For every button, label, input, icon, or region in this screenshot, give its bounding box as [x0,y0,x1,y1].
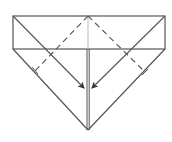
left-valley-fold [35,16,88,71]
right-fold-arrow [92,16,165,88]
origami-diagram [0,0,172,142]
left-fold-arrow [13,16,84,88]
top-band [13,16,165,49]
left-edge [13,49,88,130]
right-edge [88,49,165,130]
